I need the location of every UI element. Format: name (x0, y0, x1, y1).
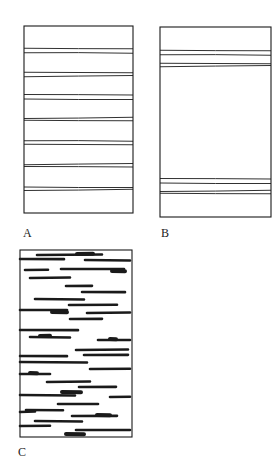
stripe-line (24, 117, 133, 118)
stripe-line (24, 164, 133, 165)
stripe-line (24, 167, 133, 168)
stripe-line (160, 63, 271, 64)
stripe-line (24, 72, 133, 73)
stripe-line (160, 183, 271, 184)
panel-label-c: C (18, 446, 26, 458)
stripe-line (24, 144, 133, 145)
stripe-line (24, 187, 133, 188)
panel-label-b: B (161, 227, 169, 239)
stripe-line (24, 95, 133, 96)
panel-a-stripes (24, 26, 133, 213)
panel-border (24, 26, 133, 213)
stripe-line (24, 189, 133, 190)
panel-c-dashes (20, 250, 132, 437)
stripe-line (160, 193, 271, 194)
stripe-line (160, 179, 271, 180)
panel-border (160, 27, 271, 217)
stripe-line (160, 50, 271, 51)
stripe-line (24, 141, 133, 142)
stripe-line (160, 66, 271, 67)
stripe-line (24, 48, 133, 49)
stripe-line (24, 53, 133, 54)
stripe-line (24, 76, 133, 77)
stripe-line (24, 120, 133, 121)
panel-b-stripes (160, 27, 271, 217)
diagram-canvas (0, 0, 280, 474)
stripe-line (160, 190, 271, 191)
panel-label-a: A (23, 227, 32, 239)
stripe-line (24, 99, 133, 100)
stripe-line (160, 55, 271, 56)
